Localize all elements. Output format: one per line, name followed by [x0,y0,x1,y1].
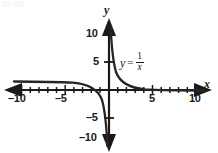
y-tick-label-neg-10: –10 [79,132,96,143]
y-tick-label-pos-10: 10 [86,28,98,39]
y-axis-label: y [104,4,109,16]
coordinate-plane [0,0,218,153]
x-tick-label-pos-10: 10 [189,93,201,104]
equation-fraction: 1 x [136,52,144,74]
y-tick-label-neg-5: –5 [86,112,98,123]
equation-denominator: x [136,63,142,73]
x-tick-label-neg-5: –5 [55,93,67,104]
x-axis-label: x [204,78,210,90]
x-tick-label-pos-5: 5 [149,93,155,104]
equation-equals-sign: = [127,57,133,68]
y-tick-label-pos-5: 5 [93,56,99,67]
y-axis-bottom-arrowhead [102,134,116,152]
graph-figure: x y –10 –5 5 10 10 5 –5 –10 y = 1 x [0,0,218,153]
equation-lhs: y [120,57,125,69]
x-tick-label-neg-10: –10 [8,93,25,104]
equation-annotation: y = 1 x [120,52,144,74]
equation-numerator: 1 [136,52,143,62]
